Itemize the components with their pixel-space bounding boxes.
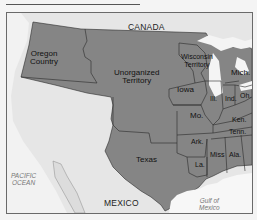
map-frame: CANADA Oregon Country Unorganized Territ… xyxy=(6,12,253,214)
label-louisiana: La. xyxy=(195,161,205,169)
label-gulf-line2: Mexico xyxy=(199,204,220,211)
label-oregon-line2: Country xyxy=(30,58,58,66)
label-pacific-line1: PACIFIC xyxy=(11,172,36,179)
label-pacific-ocean: PACIFIC OCEAN xyxy=(11,172,36,186)
label-ohio: Oh. xyxy=(240,92,251,100)
label-illinois: Ill. xyxy=(210,95,217,103)
label-mexico: MEXICO xyxy=(104,199,139,207)
label-tennessee: Tenn. xyxy=(229,128,246,136)
label-unorganized-line2: Territory xyxy=(114,77,159,85)
label-kentucky: Ken. xyxy=(232,116,246,124)
label-indiana: Ind. xyxy=(225,95,237,103)
label-arkansas: Ark. xyxy=(191,138,203,146)
label-wisconsin-line2: Territory xyxy=(181,61,213,69)
map-graphic xyxy=(7,13,252,213)
label-unorganized-territory: Unorganized Territory xyxy=(114,69,159,85)
label-gulf-line1: Gulf of xyxy=(199,197,220,204)
label-wisconsin-territory: Wisconsin Territory xyxy=(181,53,213,69)
label-missouri: Mo. xyxy=(190,112,203,120)
label-mississippi: Miss xyxy=(210,151,224,159)
title-rule xyxy=(6,4,140,5)
label-michigan: Mich. xyxy=(231,69,250,77)
label-pacific-line2: OCEAN xyxy=(11,179,36,186)
label-canada: CANADA xyxy=(128,23,165,31)
label-gulf-of-mexico: Gulf of Mexico xyxy=(199,197,220,211)
label-wisconsin-line1: Wisconsin xyxy=(181,53,213,61)
label-iowa: Iowa xyxy=(177,86,194,94)
label-alabama: Ala. xyxy=(229,151,241,159)
label-oregon-country: Oregon Country xyxy=(30,50,58,66)
label-texas: Texas xyxy=(136,156,157,164)
